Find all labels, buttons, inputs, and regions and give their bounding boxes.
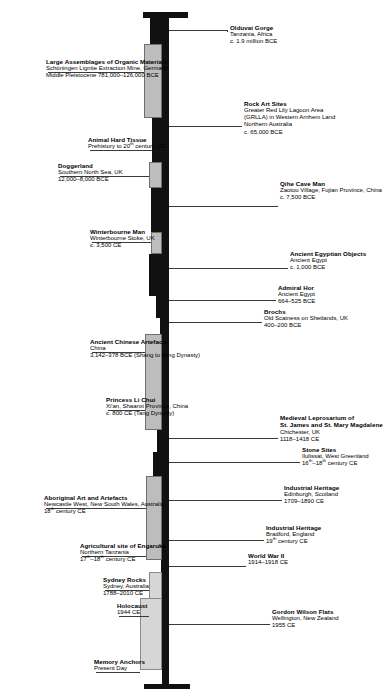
label-date: 1788–2010 CE [103,590,253,597]
label-title: World War II [248,552,388,559]
label-date: 3,142–378 BCE (Shang to Ming Dynasty) [90,352,240,359]
label-title: Princess Li Chui [106,396,256,403]
axis-band-schoeningen [144,44,162,118]
label-date: 664–525 BCE [278,298,388,305]
label-date: 19th century CE [266,538,388,545]
label-date: 16th–18th century CE [302,460,388,467]
label-animal-hard-tissue: Animal Hard Tissue Prehistory to 20th ce… [88,136,238,150]
label-place: China [90,345,240,352]
label-stone-sites: Stone Sites Ilulissat, West Greenland 16… [302,446,388,467]
label-aboriginal-art-and-artefacts: Aboriginal Art and Artefacts Newcastle W… [44,494,194,515]
label-place: Greater Red Lily Lagoon Area [244,107,388,114]
label-title: Brochs [264,308,388,315]
label-date: 1944 CE [117,609,267,616]
leader-olduvai [169,30,228,31]
leader-world-war-ii [169,566,246,567]
label-title: Olduvai Gorge [230,24,380,31]
leader-rockart [169,126,242,127]
label-winterbourne-man: Winterbourne Man Winterbourne Stoke, UK … [90,228,240,249]
label-place: Xi'an, Shaanxi Province, China [106,403,256,410]
label-date: 1709–1890 CE [284,498,388,505]
axis-segment-leprosarium [157,430,169,452]
label-title: Ancient Egyptian Objects [290,250,388,257]
axis-segment-end [144,684,190,689]
leader-olduvai-h [227,30,228,32]
label-date: 18th century CE [44,508,194,515]
label-title: Large Assemblages of Organic Materials [46,58,196,65]
label-title: Ancient Chinese Artefacts [90,338,240,345]
label-ancient-egyptian-objects: Ancient Egyptian Objects Ancient Egypt c… [290,250,388,271]
label-place: Wellington, New Zealand [272,615,388,622]
label-date: c. 1,000 BCE [290,264,388,271]
label-date: 1118–1418 CE [280,436,388,443]
label-brochs: Brochs Old Scatness on Shetlands, UK 400… [264,308,388,329]
label-title: Qihe Cave Man [280,180,388,187]
label-admiral-hor: Admiral Hor Ancient Egypt 664–525 BCE [278,284,388,305]
leader-industrial-bradford [169,540,264,541]
axis-segment-qihe [151,188,169,232]
axis-segment-olduvai [150,18,169,44]
label-place: Old Scatness on Shetlands, UK [264,315,388,322]
label-place: Ancient Egypt [278,291,388,298]
label-title: Aboriginal Art and Artefacts [44,494,194,501]
label-title: Memory Anchors [94,658,244,665]
label-date: c. 1.9 million BCE [230,38,380,45]
label-title: Industrial Heritage [284,484,388,491]
label-place: Zaotou Village, Fujian Province, China [280,187,388,194]
label-date: c. 7,500 BCE [280,194,388,201]
axis-segment-admiral-hor [156,296,169,318]
leader-brochs [169,322,262,323]
axis-segment-brochs [160,318,169,334]
label-title: Rock Art Sites [244,100,388,107]
label-title: Winterbourne Man [90,228,240,235]
label-place: Edinburgh, Scotland [284,491,388,498]
label-place-3: Northern Australia [244,121,388,128]
label-industrial-heritage-bradford: Industrial Heritage Bradford, England 19… [266,524,388,545]
label-date: Middle Pleistocene 781,000–126,000 BCE [46,72,196,79]
label-sydney-rocks: Sydney Rocks Sydney, Australia 1788–2010… [103,576,253,597]
label-doggerland: Doggerland Southern North Sea, UK 12,000… [58,162,208,183]
label-title: Holocaust [117,602,267,609]
label-title: Industrial Heritage [266,524,388,531]
leader-leprosarium [169,438,278,439]
label-title: Admiral Hor [278,284,388,291]
label-gordon-wilson-flats: Gordon Wilson Flats Wellington, New Zeal… [272,608,388,629]
label-title: Medieval Leprosarium of [280,414,388,421]
label-date: Present Day [94,665,244,672]
label-date: c. 3,500 CE [90,242,240,249]
label-rock-art-sites: Rock Art Sites Greater Red Lily Lagoon A… [244,100,388,136]
label-date: 400–200 BCE [264,322,388,329]
label-date: 12,000–8,000 BCE [58,176,208,183]
label-date: 17th–18th century CE [80,556,230,563]
label-date: 1914–1918 CE [248,559,388,566]
leader-egyptian-objects [169,268,288,269]
axis-segment-stone-sites [153,452,169,476]
label-title: Doggerland [58,162,208,169]
label-place: Southern North Sea, UK [58,169,208,176]
label-place: Tanzania, Africa [230,31,380,38]
label-place-2: (GRLLA) in Western Arnhem Land [244,114,388,121]
leader-admiral-hor [169,300,276,301]
label-date: Prehistory to 20th century CE [88,143,238,150]
label-qihe-cave-man: Qihe Cave Man Zaotou Village, Fujian Pro… [280,180,388,201]
label-industrial-heritage-edinburgh: Industrial Heritage Edinburgh, Scotland … [284,484,388,505]
label-place: Schöningen Lignite Extraction Mine, Germ… [46,65,196,72]
label-world-war-ii: World War II 1914–1918 CE [248,552,388,566]
label-princess-li-chui: Princess Li Chui Xi'an, Shaanxi Province… [106,396,256,417]
label-title: Agricultural site of Engaruka [80,542,230,549]
label-memory-anchors: Memory Anchors Present Day [94,658,244,672]
leader-stone-sites [169,462,300,463]
label-holocaust: Holocaust 1944 CE [117,602,267,616]
label-title-2: St. James and St. Mary Magdalene [280,421,388,428]
axis-segment-egypt [149,254,169,296]
label-place: Sydney, Australia [103,583,253,590]
label-place: Winterbourne Stoke, UK [90,235,240,242]
label-date: c. 65,000 BCE [244,129,388,136]
label-agricultural-site-of-engaruka: Agricultural site of Engaruka Northern T… [80,542,230,563]
label-olduvai-gorge: Olduvai Gorge Tanzania, Africa c. 1.9 mi… [230,24,380,45]
label-title: Stone Sites [302,446,388,453]
label-place: Ancient Egypt [290,257,388,264]
label-title: Sydney Rocks [103,576,253,583]
label-medieval-leprosarium: Medieval Leprosarium of St. James and St… [280,414,388,443]
label-place: Chichester, UK [280,429,388,436]
